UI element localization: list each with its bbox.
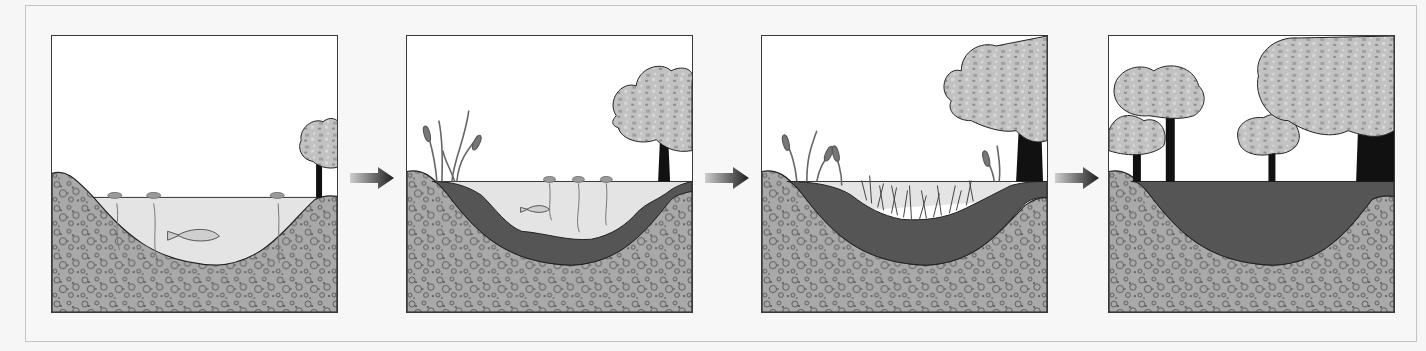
progression-arrow-1 [350,167,394,189]
stage-1-open-pond-panel [51,35,338,313]
stage-2-sediment-panel [406,35,693,313]
progression-arrow-3 [1055,167,1099,189]
stage-4-forest-panel [1108,35,1395,313]
progression-arrow-2 [705,167,749,189]
stage-3-marsh-panel [761,35,1048,313]
